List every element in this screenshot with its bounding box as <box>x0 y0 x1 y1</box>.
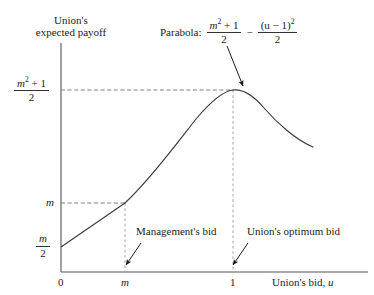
caption-term2-denominator: 2 <box>275 33 281 46</box>
annotation-managements-bid: Management's bid <box>136 225 217 237</box>
payoff-linear-segment <box>61 203 125 247</box>
peak-payoff-num-rest: + 1 <box>29 77 46 89</box>
x-tick-label-one: 1 <box>230 276 236 288</box>
x-tick-label-m: m <box>121 276 129 288</box>
caption-term1-fraction: m2 + 1 2 <box>207 18 242 46</box>
y-tick-label-peak-payoff: m2 + 1 2 <box>14 76 49 104</box>
peak-payoff-fraction: m2 + 1 2 <box>14 76 49 104</box>
parabola-caption-prefix: Parabola: <box>160 26 202 38</box>
figure-canvas: Union's expected payoff Parabola: m2 + 1… <box>0 0 374 295</box>
y-axis-title-line1: Union's <box>22 14 120 26</box>
x-tick-label-zero: 0 <box>58 276 64 288</box>
peak-payoff-num-base: m <box>17 77 25 89</box>
m-over-2-fraction: m 2 <box>36 233 50 259</box>
x-axis-title-variable: u <box>328 276 334 288</box>
payoff-parabola-segment <box>125 90 313 203</box>
caption-term2-num-exponent: 2 <box>291 17 295 26</box>
caption-term1-denominator: 2 <box>221 33 227 46</box>
parabola-caption: Parabola: m2 + 1 2 − (u − 1)2 2 <box>160 18 297 46</box>
peak-payoff-numerator: m2 + 1 <box>14 76 49 91</box>
managements-bid-arrow <box>126 243 141 265</box>
caption-term2-num-body: (u − 1) <box>261 19 291 31</box>
parabola-caption-arrow <box>227 46 243 86</box>
y-tick-label-m: m <box>40 196 54 208</box>
caption-term1-num-base: m <box>210 19 218 31</box>
m-over-2-denominator: 2 <box>40 247 46 260</box>
x-axis-title: Union's bid, u <box>272 276 334 288</box>
caption-term2-numerator: (u − 1)2 <box>258 18 298 33</box>
caption-term1-num-rest: + 1 <box>221 19 238 31</box>
peak-payoff-denominator: 2 <box>29 91 35 104</box>
caption-minus-operator: − <box>246 26 252 38</box>
y-axis-title-line2: expected payoff <box>22 26 120 38</box>
annotation-unions-optimum-bid: Union's optimum bid <box>247 225 340 237</box>
y-axis-title: Union's expected payoff <box>22 14 120 39</box>
y-tick-label-m-over-2: m 2 <box>36 233 50 259</box>
m-over-2-numerator: m <box>36 233 50 247</box>
unions-optimum-bid-arrow <box>233 243 248 265</box>
caption-term2-fraction: (u − 1)2 2 <box>258 18 298 46</box>
caption-term1-numerator: m2 + 1 <box>207 18 242 33</box>
x-axis-title-text: Union's bid, <box>272 276 328 288</box>
